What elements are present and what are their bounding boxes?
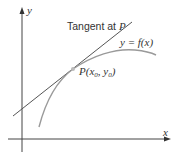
tangent-label: Tangent at P: [67, 21, 126, 32]
curve-label: y = f(x): [120, 37, 153, 48]
point-label: P(x0, y0): [79, 66, 115, 79]
point-p: [71, 67, 75, 71]
x-axis-label: x: [163, 127, 168, 138]
y-axis-label: y: [27, 5, 32, 16]
y-axis-arrow-icon: [20, 7, 25, 14]
curve-f: [39, 50, 156, 127]
